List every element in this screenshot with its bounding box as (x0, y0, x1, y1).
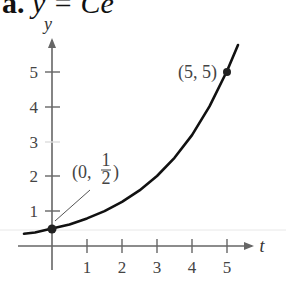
y-axis-label: y (42, 14, 52, 34)
point-end-marker (223, 68, 231, 76)
t-tick-2: 2 (118, 258, 127, 277)
point-end-label: (5, 5) (178, 62, 217, 83)
point-origin-label: (0, 1 2 ) (72, 150, 119, 188)
t-tick-4: 4 (188, 258, 197, 277)
point-origin-numerator: 1 (102, 150, 111, 170)
y-tick-5: 5 (30, 63, 39, 82)
y-tick-3: 3 (30, 133, 39, 152)
t-tick-5: 5 (223, 258, 232, 277)
t-tick-1: 1 (83, 258, 92, 277)
point-origin-leader (55, 190, 90, 221)
point-origin-marker (48, 225, 57, 234)
exponential-graph: 1 2 3 4 5 1 2 3 4 5 y t (0, 1 2 ) (5, 5) (0, 0, 286, 288)
t-tick-3: 3 (153, 258, 162, 277)
t-axis-label: t (259, 236, 265, 256)
y-tick-4: 4 (30, 98, 39, 117)
y-tick-1: 1 (30, 202, 39, 221)
point-origin-denominator: 2 (102, 168, 111, 188)
y-tick-2: 2 (30, 167, 39, 186)
point-origin-close: ) (113, 162, 119, 183)
point-origin-open: (0, (72, 162, 92, 183)
